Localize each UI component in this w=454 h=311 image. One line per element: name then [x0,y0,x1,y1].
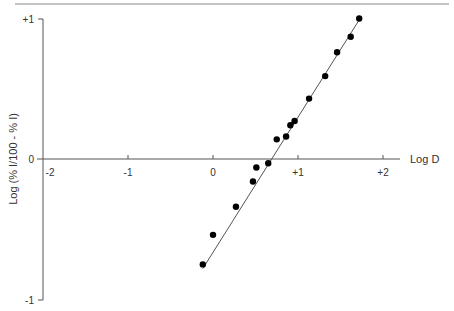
data-point [233,204,239,210]
x-tick-label: -2 [46,167,55,178]
data-point [334,49,340,55]
fit-line [203,19,360,269]
data-point [274,136,280,142]
data-point [265,160,271,166]
x-tick-label: 0 [210,167,216,178]
data-point [348,34,354,40]
data-point [322,73,328,79]
data-points [200,15,363,267]
y-axis-title: Log (% I/100 - % I) [7,113,19,205]
x-tick-label: +2 [377,167,389,178]
data-point [291,118,297,124]
scatter-chart: +1 0 -1 -2 -1 0 +1 +2 Log D Log (% I/100… [0,0,454,311]
x-tick-label: -1 [124,167,133,178]
data-point [210,232,216,238]
data-point [356,15,362,21]
data-point [283,133,289,139]
data-point [253,164,259,170]
y-tick-label: -1 [25,295,34,306]
y-tick-label: +1 [23,14,35,25]
x-axis-title: Log D [410,153,439,165]
y-tick-label: 0 [28,154,34,165]
x-tick-label: +1 [292,167,304,178]
data-point [200,261,206,267]
regression-line [203,19,360,269]
data-point [306,95,312,101]
data-point [250,178,256,184]
